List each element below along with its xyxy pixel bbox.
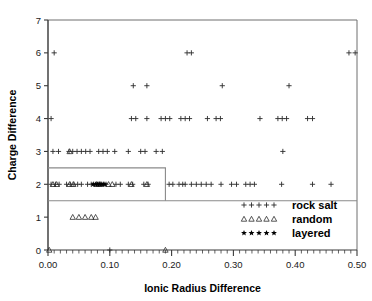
marker-plus	[105, 149, 110, 154]
legend-label-layered: layered	[292, 227, 331, 239]
marker-plus	[142, 149, 147, 154]
marker-plus	[144, 83, 149, 88]
marker-plus	[107, 247, 112, 252]
y-tick-label-2: 2	[36, 179, 41, 190]
marker-triangle	[271, 216, 276, 221]
marker-plus	[48, 116, 53, 121]
marker-triangle	[249, 216, 254, 221]
marker-plus	[56, 149, 61, 154]
marker-star	[264, 230, 270, 236]
marker-plus	[205, 116, 210, 121]
legend-label-rock-salt: rock salt	[292, 199, 338, 211]
marker-plus	[194, 182, 199, 187]
marker-plus	[249, 202, 254, 207]
marker-plus	[310, 116, 315, 121]
marker-plus	[133, 116, 138, 121]
x-axis-title: Ionic Radius Difference	[144, 282, 261, 294]
marker-plus	[144, 116, 149, 121]
marker-plus	[280, 149, 285, 154]
marker-plus	[170, 182, 175, 187]
marker-triangle	[70, 214, 75, 219]
marker-plus	[286, 83, 291, 88]
y-tick-label-0: 0	[36, 245, 41, 256]
x-tick-label-0.20: 0.20	[162, 259, 181, 270]
marker-triangle	[264, 216, 269, 221]
marker-plus	[229, 182, 234, 187]
marker-triangle	[241, 216, 246, 221]
marker-plus	[187, 116, 192, 121]
marker-triangle	[82, 214, 87, 219]
marker-plus	[310, 182, 315, 187]
marker-plus	[118, 182, 123, 187]
marker-plus	[256, 202, 261, 207]
marker-plus	[284, 116, 289, 121]
legend-entry-layered: layered	[241, 227, 330, 239]
x-tick-label-0.40: 0.40	[286, 259, 305, 270]
scatter-chart-figure: 012345670.000.100.200.300.400.50Ionic Ra…	[0, 0, 372, 301]
y-tick-label-7: 7	[36, 15, 41, 26]
x-tick-label-0.00: 0.00	[39, 259, 58, 270]
y-axis-title: Charge Difference	[6, 90, 18, 181]
legend-label-random: random	[292, 213, 333, 225]
marker-plus	[199, 182, 204, 187]
marker-plus	[79, 182, 84, 187]
marker-plus	[204, 182, 209, 187]
marker-plus	[209, 182, 214, 187]
y-tick-label-5: 5	[36, 80, 41, 91]
marker-plus	[160, 149, 165, 154]
marker-plus	[328, 182, 333, 187]
marker-plus	[252, 182, 257, 187]
y-tick-label-4: 4	[36, 113, 41, 124]
marker-plus	[167, 116, 172, 121]
marker-plus	[346, 50, 351, 55]
marker-star	[241, 230, 247, 236]
marker-star	[249, 230, 255, 236]
y-tick-label-1: 1	[36, 212, 41, 223]
marker-plus	[126, 149, 131, 154]
chart-canvas: 012345670.000.100.200.300.400.50Ionic Ra…	[0, 0, 372, 301]
marker-triangle	[93, 214, 98, 219]
legend-entry-random: random	[241, 213, 332, 225]
marker-plus	[183, 182, 188, 187]
x-tick-label-0.50: 0.50	[348, 259, 367, 270]
marker-plus	[257, 116, 262, 121]
marker-plus	[189, 50, 194, 55]
marker-triangle	[256, 216, 261, 221]
marker-plus	[305, 116, 310, 121]
x-tick-label-0.10: 0.10	[101, 259, 120, 270]
marker-plus	[279, 182, 284, 187]
marker-plus	[52, 50, 57, 55]
marker-plus	[218, 116, 223, 121]
marker-plus	[112, 149, 117, 154]
marker-plus	[154, 149, 159, 154]
y-tick-label-3: 3	[36, 146, 41, 157]
marker-plus	[189, 182, 194, 187]
marker-plus	[220, 83, 225, 88]
marker-plus	[234, 182, 239, 187]
marker-plus	[218, 182, 223, 187]
marker-triangle	[76, 214, 81, 219]
marker-star	[271, 230, 277, 236]
marker-plus	[264, 202, 269, 207]
y-tick-label-6: 6	[36, 47, 41, 58]
marker-plus	[241, 202, 246, 207]
marker-plus	[50, 149, 55, 154]
marker-plus	[131, 83, 136, 88]
marker-star	[256, 230, 262, 236]
x-tick-label-0.30: 0.30	[224, 259, 243, 270]
marker-plus	[271, 202, 276, 207]
marker-plus	[87, 149, 92, 154]
